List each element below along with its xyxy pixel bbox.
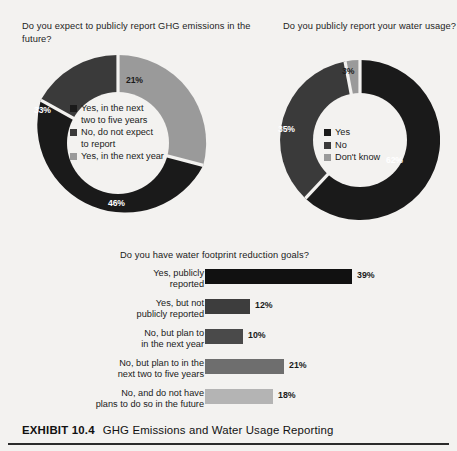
legend-item-no: No — [324, 140, 414, 152]
legend-item-label: Yes, in the next two to five years — [81, 103, 147, 126]
water-usage-donut-title: Do you publicly report your water usage? — [283, 20, 457, 33]
exhibit-caption: EXHIBIT 10.4GHG Emissions and Water Usag… — [22, 424, 333, 436]
legend-item-yes-next-year: Yes, in the next year — [70, 151, 190, 163]
water-footprint-bar-title: Do you have water footprint reduction go… — [120, 250, 309, 260]
bar-value-label: 39% — [357, 270, 375, 280]
legend-swatch-icon — [70, 129, 77, 136]
ghg-value-label-33: 33% — [34, 105, 51, 115]
water-footprint-goals-bar: Yes, publicly reported 39% Yes, but not … — [0, 268, 457, 418]
bar-row: No, but plan to in the next two to five … — [0, 358, 457, 388]
legend-swatch-icon — [324, 154, 331, 161]
legend-swatch-icon — [70, 153, 77, 160]
bar-row: No, and do not have plans to do so in th… — [0, 388, 457, 418]
bar-value-label: 12% — [255, 300, 273, 310]
ghg-value-label-46: 46% — [108, 198, 125, 208]
bar-fill — [205, 299, 250, 314]
water-usage-donut-legend: Yes No Don't know — [324, 127, 414, 165]
water-value-label-3: 3% — [342, 66, 354, 76]
legend-item-yes: Yes — [324, 127, 414, 139]
bar-track — [205, 269, 352, 284]
legend-item-dont-know: Don't know — [324, 152, 414, 164]
legend-item-label: Yes, in the next year — [81, 151, 164, 163]
bar-category-label: No, and do not have plans to do so in th… — [54, 388, 204, 411]
bar-track — [205, 329, 243, 344]
bar-value-label: 21% — [289, 360, 307, 370]
bar-value-label: 18% — [278, 390, 296, 400]
bar-category-label: Yes, but not publicly reported — [54, 298, 204, 321]
exhibit-number: EXHIBIT 10.4 — [22, 424, 95, 436]
water-value-label-35: 35% — [278, 124, 295, 134]
bar-fill — [205, 329, 243, 344]
legend-swatch-icon — [324, 142, 331, 149]
bar-fill — [205, 389, 273, 404]
bar-value-label: 10% — [248, 330, 266, 340]
caption-divider — [8, 443, 449, 445]
bar-category-label: Yes, publicly reported — [54, 268, 204, 291]
bar-fill — [205, 269, 352, 284]
bar-row: Yes, but not publicly reported 12% — [0, 298, 457, 328]
legend-item-no-not-expect: No, do not expect to report — [70, 127, 190, 150]
legend-item-yes-two-to-five: Yes, in the next two to five years — [70, 103, 190, 126]
exhibit-figure: Do you expect to publicly report GHG emi… — [0, 0, 457, 451]
bar-category-label: No, but plan to in the next two to five … — [54, 358, 204, 381]
legend-swatch-icon — [324, 129, 331, 136]
bar-row: Yes, publicly reported 39% — [0, 268, 457, 298]
bar-track — [205, 359, 284, 374]
legend-item-label: Don't know — [335, 152, 380, 164]
bar-row: No, but plan to in the next year 10% — [0, 328, 457, 358]
ghg-value-label-21: 21% — [126, 75, 143, 85]
bar-fill — [205, 359, 284, 374]
legend-item-label: Yes — [335, 127, 350, 139]
legend-item-label: No — [335, 140, 347, 152]
bar-track — [205, 299, 250, 314]
ghg-donut-legend: Yes, in the next two to five years No, d… — [70, 103, 190, 164]
bar-track — [205, 389, 273, 404]
ghg-donut-title: Do you expect to publicly report GHG emi… — [22, 20, 257, 45]
exhibit-title: GHG Emissions and Water Usage Reporting — [103, 424, 334, 436]
legend-swatch-icon — [70, 105, 77, 112]
legend-item-label: No, do not expect to report — [81, 127, 153, 150]
bar-category-label: No, but plan to in the next year — [54, 328, 204, 351]
